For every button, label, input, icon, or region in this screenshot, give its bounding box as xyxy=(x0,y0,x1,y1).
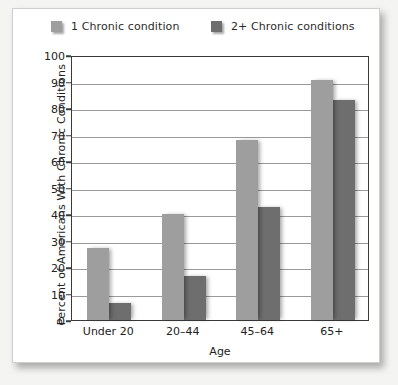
bar xyxy=(258,207,280,320)
chart-card: 1 Chronic condition 2+ Chronic condition… xyxy=(12,8,380,363)
y-tick-mark xyxy=(66,82,71,84)
x-tick-label: Under 20 xyxy=(83,325,134,338)
y-tick-mark xyxy=(66,108,71,110)
x-axis-ticks: Under 2020–4445–6465+ xyxy=(71,325,369,341)
x-tick-label: 45–64 xyxy=(241,325,275,338)
bar xyxy=(162,214,184,320)
y-tick-mark xyxy=(66,294,71,296)
bar-group xyxy=(162,55,206,320)
legend-swatch-icon xyxy=(51,21,62,32)
y-tick-mark xyxy=(66,161,71,163)
legend-label: 1 Chronic condition xyxy=(71,20,180,33)
y-tick-mark xyxy=(66,241,71,243)
bar-group xyxy=(311,55,355,320)
y-tick-mark xyxy=(66,267,71,269)
plot-area xyxy=(71,56,369,321)
bar xyxy=(311,80,333,320)
y-tick-mark xyxy=(66,214,71,216)
x-tick-label: 65+ xyxy=(320,325,343,338)
chart-legend: 1 Chronic condition 2+ Chronic condition… xyxy=(13,20,379,40)
y-tick-mark xyxy=(66,188,71,190)
bar-group xyxy=(236,55,280,320)
x-axis-title: Age xyxy=(71,345,369,358)
legend-entry-2plus-chronic-conditions: 2+ Chronic conditions xyxy=(211,20,355,33)
bar xyxy=(184,276,206,320)
bar xyxy=(87,248,109,320)
y-tick-mark xyxy=(66,320,71,322)
y-axis-title: Percent of Americans With Chronic Condit… xyxy=(55,62,68,327)
legend-swatch-icon xyxy=(211,21,222,32)
y-tick-label: 100 xyxy=(39,50,65,63)
x-tick-label: 20–44 xyxy=(166,325,200,338)
legend-entry-1-chronic-condition: 1 Chronic condition xyxy=(51,20,180,33)
y-tick-mark xyxy=(66,55,71,57)
bar xyxy=(236,140,258,320)
legend-label: 2+ Chronic conditions xyxy=(231,20,355,33)
bar xyxy=(333,100,355,320)
y-tick-mark xyxy=(66,135,71,137)
bar-group xyxy=(87,55,131,320)
bar xyxy=(109,303,131,320)
